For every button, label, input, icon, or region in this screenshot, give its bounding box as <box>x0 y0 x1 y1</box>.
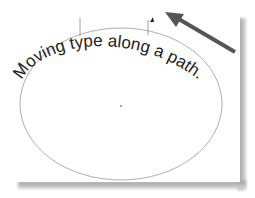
path-text[interactable]: Moving type along a path. <box>9 31 207 83</box>
path-type-canvas: Moving type along a path. <box>0 0 255 198</box>
arrow-icon <box>165 12 235 52</box>
center-point <box>120 105 122 107</box>
cursor-marker-icon <box>150 17 154 22</box>
